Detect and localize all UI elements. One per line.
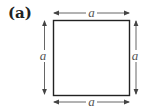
left-dimension-label: a [40,48,47,63]
right-dimension-label: a [132,48,139,63]
top-dimension-arrow: a [54,5,129,20]
square [54,21,130,96]
diagram-canvas: a a a a [0,0,144,107]
square-dimension-diagram: (a) a a a [0,0,144,107]
right-dimension-arrow: a [132,21,139,94]
bottom-dimension-label: a [88,94,95,107]
left-dimension-arrow: a [40,21,47,94]
top-dimension-label: a [88,5,95,20]
